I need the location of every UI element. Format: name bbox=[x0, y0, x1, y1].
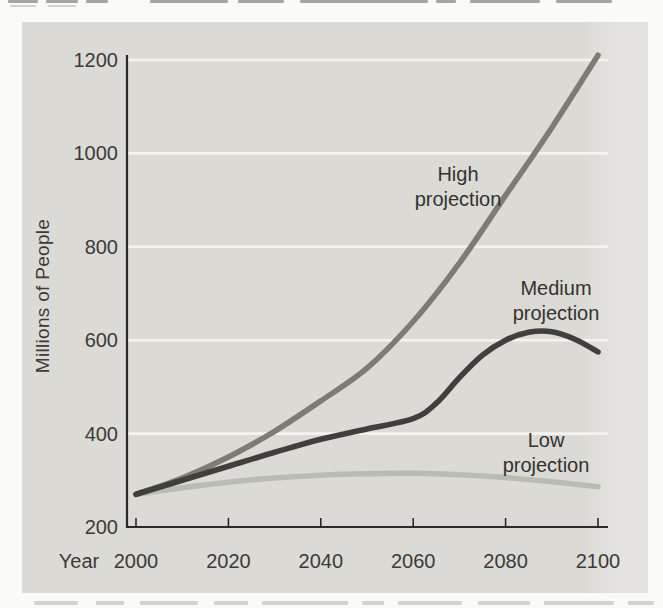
x-tick-label-2000: 2000 bbox=[114, 550, 159, 573]
caption-remnant-mark bbox=[262, 601, 348, 605]
caption-remnant-mark bbox=[362, 601, 384, 605]
high-projection-label: High projection bbox=[415, 162, 502, 212]
caption-remnant-mark bbox=[96, 601, 124, 605]
low-projection-label: Low projection bbox=[503, 428, 590, 478]
x-tick-label-2100: 2100 bbox=[576, 550, 621, 573]
caption-remnant-mark bbox=[140, 601, 198, 605]
x-tick-label-2080: 2080 bbox=[483, 550, 528, 573]
y-tick-label-1000: 1000 bbox=[38, 141, 118, 165]
y-tick-label-600: 600 bbox=[38, 328, 118, 352]
caption-remnant-mark bbox=[628, 601, 654, 605]
caption-remnant-mark bbox=[34, 601, 78, 605]
x-tick-label-2040: 2040 bbox=[299, 550, 344, 573]
y-tick-label-400: 400 bbox=[38, 422, 118, 446]
y-tick-label-200: 200 bbox=[38, 515, 118, 539]
caption-remnant-mark bbox=[478, 601, 530, 605]
x-tick-label-2020: 2020 bbox=[206, 550, 251, 573]
x-tick-label-2060: 2060 bbox=[391, 550, 436, 573]
x-axis-title: Year bbox=[59, 550, 99, 573]
y-tick-label-800: 800 bbox=[38, 235, 118, 259]
caption-remnant-mark bbox=[214, 601, 248, 605]
caption-remnant-mark bbox=[398, 601, 462, 605]
medium-projection-label: Medium projection bbox=[513, 276, 600, 326]
y-tick-label-1200: 1200 bbox=[38, 48, 118, 72]
figure-page: Millions of People Year 2004006008001000… bbox=[0, 0, 663, 608]
caption-remnant-mark bbox=[544, 601, 614, 605]
